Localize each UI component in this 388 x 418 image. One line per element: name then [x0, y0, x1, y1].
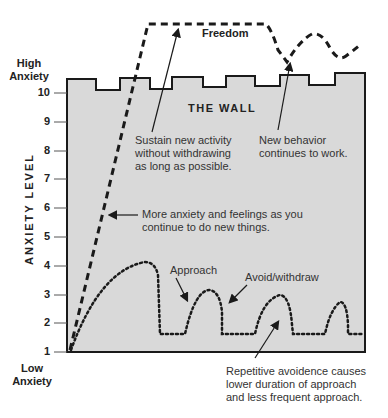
sustain-annotation: Sustain new activity without withdrawing… — [135, 134, 232, 173]
repetitive-line-1: Repetitive avoidence causes — [226, 365, 366, 378]
new-behavior-annotation: New behavior continues to work. — [259, 134, 348, 160]
more-anxiety-annotation: More anxiety and feelings as you continu… — [142, 208, 303, 234]
low-label-line2: Anxiety — [10, 375, 54, 388]
approach-label: Approach — [170, 264, 217, 277]
y-axis-title: ANXIETY LEVEL — [23, 153, 35, 265]
sustain-line-1: Sustain new activity — [135, 134, 232, 147]
repetitive-line-3: and less frequent approach. — [226, 391, 366, 404]
high-label-line2: Anxiety — [7, 70, 51, 83]
tick-10: 10 — [30, 86, 50, 98]
low-label-line1: Low — [10, 362, 54, 375]
y-axis-ticks — [54, 93, 67, 352]
freedom-label: Freedom — [202, 27, 248, 40]
low-anxiety-label: Low Anxiety — [10, 362, 54, 388]
tick-1: 1 — [30, 345, 50, 357]
sustain-line-2: without withdrawing — [135, 147, 232, 160]
avoid-withdraw-label: Avoid/withdraw — [245, 271, 319, 284]
more-anxiety-line-1: More anxiety and feelings as you — [142, 208, 303, 221]
new-behavior-line-1: New behavior — [259, 134, 348, 147]
high-label-line1: High — [7, 57, 51, 70]
tick-9: 9 — [30, 115, 50, 127]
wall-title: THE WALL — [188, 102, 256, 114]
repetitive-annotation: Repetitive avoidence causes lower durati… — [226, 365, 366, 404]
tick-2: 2 — [30, 316, 50, 328]
tick-3: 3 — [30, 288, 50, 300]
sustain-line-3: as long as possible. — [135, 160, 232, 173]
repetitive-line-2: lower duration of approach — [226, 378, 366, 391]
more-anxiety-line-2: continue to do new things. — [142, 221, 303, 234]
new-behavior-line-2: continues to work. — [259, 147, 348, 160]
high-anxiety-label: High Anxiety — [7, 57, 51, 83]
